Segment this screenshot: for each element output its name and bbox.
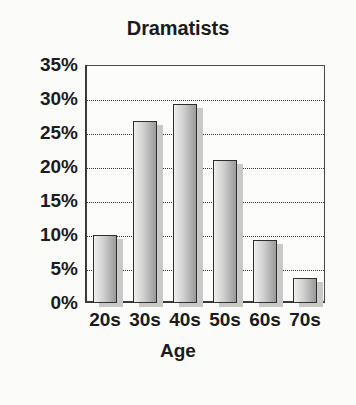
y-axis-tick-label: 25% (6, 122, 78, 144)
x-axis-title: Age (0, 340, 356, 362)
x-axis-tick-label: 40s (165, 309, 205, 331)
y-axis-tick-label: 5% (6, 258, 78, 280)
x-axis-tick-labels: 20s30s40s50s60s70s (85, 309, 325, 337)
gridline (87, 270, 324, 271)
x-axis-tick-label: 60s (245, 309, 285, 331)
gridline (87, 100, 324, 101)
x-axis-tick-label: 50s (205, 309, 245, 331)
y-axis-tick-label: 10% (6, 224, 78, 246)
y-axis-tick-labels: 35%30%25%20%15%10%5%0% (0, 65, 78, 303)
gridline (87, 168, 324, 169)
y-axis-tick-label: 15% (6, 190, 78, 212)
y-axis-tick-label: 0% (6, 292, 78, 314)
bar-chart-figure: Dramatists 35%30%25%20%15%10%5%0% 20s30s… (0, 0, 356, 405)
gridline (87, 134, 324, 135)
gridline (87, 236, 324, 237)
plot-area (85, 65, 325, 303)
y-axis-tick-label: 20% (6, 156, 78, 178)
y-axis-tick-label: 35% (6, 54, 78, 76)
x-axis-tick-label: 70s (285, 309, 325, 331)
y-axis-tick-label: 30% (6, 88, 78, 110)
chart-title: Dramatists (0, 17, 356, 40)
gridline (87, 202, 324, 203)
x-axis-tick-label: 30s (125, 309, 165, 331)
x-axis-tick-label: 20s (85, 309, 125, 331)
